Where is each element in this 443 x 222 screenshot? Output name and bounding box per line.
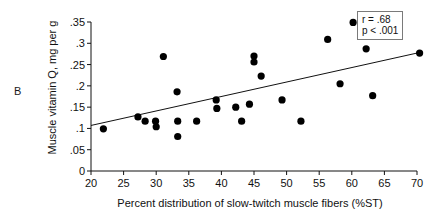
x-axis-label: Percent distribution of slow-twitch musc…	[60, 198, 440, 209]
svg-text:55: 55	[313, 177, 325, 189]
svg-text:.3: .3	[76, 37, 85, 49]
svg-text:45: 45	[248, 177, 260, 189]
svg-text:.05: .05	[70, 144, 85, 156]
svg-text:.1: .1	[76, 122, 85, 134]
correlation-value: r = .68	[362, 14, 398, 25]
svg-text:50: 50	[280, 177, 292, 189]
svg-text:.25: .25	[70, 59, 85, 71]
svg-text:0: 0	[79, 165, 85, 177]
svg-text:.2: .2	[76, 80, 85, 92]
svg-text:.35: .35	[70, 16, 85, 28]
svg-text:20: 20	[85, 177, 97, 189]
plot-axes	[87, 22, 417, 175]
svg-text:35: 35	[183, 177, 195, 189]
svg-text:30: 30	[150, 177, 162, 189]
pvalue-text: p < .001	[362, 25, 398, 36]
svg-text:.15: .15	[70, 101, 85, 113]
svg-text:65: 65	[378, 177, 390, 189]
statistics-box: r = .68 p < .001	[357, 11, 403, 40]
figure-panel-b: B Muscle vitamin Q, mg per g 0.05.1.15.2…	[0, 0, 443, 222]
svg-text:40: 40	[215, 177, 227, 189]
svg-text:60: 60	[346, 177, 358, 189]
svg-text:70: 70	[411, 177, 423, 189]
svg-text:25: 25	[117, 177, 129, 189]
